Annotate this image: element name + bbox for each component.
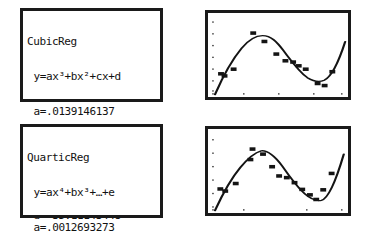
quartic-plot-panel[interactable] (205, 126, 351, 216)
cubic-plot-y-axis-ticks (212, 21, 214, 91)
quartic-fit-curve (215, 151, 344, 211)
cubic-plot-panel[interactable] (205, 10, 351, 100)
coef-a-value: .0012693273 (46, 221, 114, 232)
cubic-plot-svg[interactable] (208, 13, 348, 97)
cubic-reg-coefficient-a: a=.0139146137 (27, 106, 158, 118)
coef-a-label: a= (34, 105, 46, 118)
quartic-plot-svg[interactable] (208, 129, 348, 213)
quartic-reg-equation: y=ax⁴+bx³+…+e (27, 187, 158, 199)
quartic-reg-coefficient-a: a=.0012693273 (27, 222, 158, 232)
cubic-plot-x-axis-ticks (212, 93, 342, 94)
coef-a-label: a= (34, 221, 46, 232)
quartic-reg-title: QuarticReg (27, 152, 158, 164)
cubic-plot-data-points (218, 31, 335, 87)
coef-a-value: .0139146137 (46, 105, 114, 118)
quartic-reg-text-panel: QuarticReg y=ax⁴+bx³+…+e a=.0012693273 b… (20, 124, 163, 218)
cubic-reg-title: CubicReg (27, 36, 158, 48)
quartic-reg-lcd-lines: QuarticReg y=ax⁴+bx³+…+e a=.0012693273 b… (27, 129, 158, 232)
quartic-plot-x-axis-ticks (212, 209, 342, 210)
cubic-reg-equation: y=ax³+bx²+cx+d (27, 71, 158, 83)
cubic-reg-text-panel: CubicReg y=ax³+bx²+cx+d a=.0139146137 b=… (20, 8, 163, 102)
quartic-plot-y-axis-ticks (212, 139, 214, 208)
